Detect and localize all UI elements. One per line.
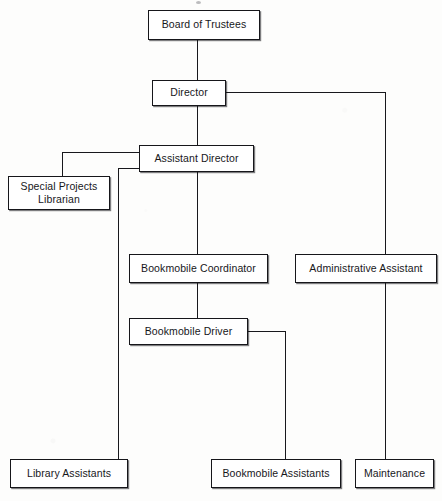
connector-assistant-director-to-bookmobile-coordinator [197,172,198,254]
node-label-board-of-trustees: Board of Trustees [158,18,251,31]
node-label-special-projects-librarian: Special Projects Librarian [17,180,102,206]
connector-bookmobile-driver-to-assistants [285,331,286,459]
node-library-assistants[interactable]: Library Assistants [10,459,128,488]
connector-right-trunk-upper [385,92,386,254]
connector-director-to-assistant-director [197,105,198,146]
node-board-of-trustees[interactable]: Board of Trustees [148,10,260,40]
connector-assistant-director-left-stub [118,168,140,169]
node-label-bookmobile-coordinator: Bookmobile Coordinator [137,262,260,275]
node-label-library-assistants: Library Assistants [23,467,115,480]
node-special-projects-librarian[interactable]: Special Projects Librarian [8,176,110,210]
node-director[interactable]: Director [152,80,226,106]
connector-director-to-right-trunk [226,92,386,93]
connector-bookmobile-coordinator-to-driver [197,283,198,319]
connector-right-trunk-lower [385,283,386,459]
node-label-assistant-director: Assistant Director [150,152,242,165]
node-label-bookmobile-assistants: Bookmobile Assistants [218,467,333,480]
connector-bookmobile-driver-right-stub [248,331,286,332]
node-assistant-director[interactable]: Assistant Director [139,145,254,172]
paper-grain-texture [0,0,442,501]
node-bookmobile-assistants[interactable]: Bookmobile Assistants [211,459,341,488]
scan-artifact-speck [196,1,201,4]
connector-board-to-director [197,40,198,81]
connector-special-projects-riser [62,152,63,176]
node-bookmobile-coordinator[interactable]: Bookmobile Coordinator [129,254,268,283]
node-bookmobile-driver[interactable]: Bookmobile Driver [129,318,248,345]
node-administrative-assistant[interactable]: Administrative Assistant [295,254,437,283]
node-label-maintenance: Maintenance [360,467,429,480]
connector-special-projects-to-assistant-director [62,152,140,153]
connector-left-trunk-to-library-assistants [118,168,119,459]
node-label-bookmobile-driver: Bookmobile Driver [141,325,236,338]
node-maintenance[interactable]: Maintenance [355,459,434,488]
node-label-administrative-assistant: Administrative Assistant [305,262,426,275]
org-chart: Board of Trustees Director Assistant Dir… [0,0,442,501]
node-label-director: Director [166,86,212,99]
